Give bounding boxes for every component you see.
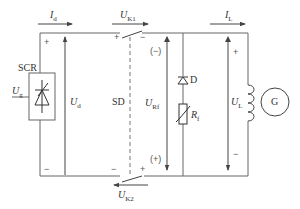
minus-sign-ul: − — [233, 150, 238, 159]
minus-sign-k2: − — [111, 165, 116, 174]
switch-k1-icon — [122, 31, 142, 38]
inductor-icon — [248, 85, 254, 121]
resistor-rf-icon — [176, 104, 190, 124]
plus-sign-ul: + — [233, 48, 238, 57]
rf-label: Rf — [191, 110, 199, 123]
switch-k2-icon — [122, 176, 142, 182]
plus-sign-k1: + — [114, 33, 119, 42]
ug-label: Ug — [12, 86, 23, 99]
plus-sign-k2: + — [140, 165, 145, 174]
uk2-label: UK2 — [118, 190, 134, 203]
paren-minus-sign: (−) — [150, 47, 161, 56]
uk1-label: UK1 — [120, 10, 136, 23]
diode-icon — [178, 77, 188, 84]
id-label: Id — [50, 10, 57, 23]
paren-plus-sign: (+) — [150, 155, 161, 164]
urf-label: URf — [145, 98, 159, 111]
minus-sign-scr-bottom: − — [44, 165, 49, 174]
ud-label: Ud — [70, 97, 81, 110]
generator-label: G — [271, 97, 278, 107]
minus-sign-k1: − — [140, 33, 145, 42]
diode-label: D — [190, 75, 197, 85]
plus-sign-scr-top: + — [44, 38, 49, 47]
sd-label: SD — [112, 97, 125, 107]
scr-icon — [35, 80, 49, 113]
scr-label: SCR — [18, 63, 37, 73]
il-label: IL — [225, 10, 233, 23]
ul-label: UL — [231, 97, 243, 110]
